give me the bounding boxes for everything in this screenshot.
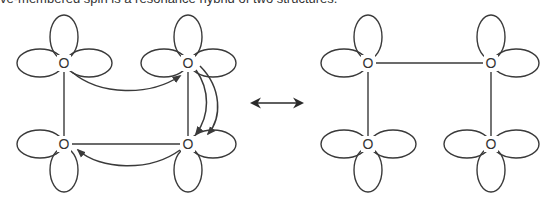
atom-bottom-right: O	[174, 130, 236, 192]
atom-top-right: O	[477, 15, 539, 77]
lobe-left	[17, 49, 63, 77]
atom-label: O	[363, 136, 374, 152]
atom-label: O	[59, 55, 70, 71]
left-structure: O O O O	[17, 15, 236, 192]
lobe-left	[321, 130, 367, 158]
lobe-right	[190, 49, 236, 77]
lobe-bottom	[354, 148, 382, 192]
lobe-bottom	[174, 148, 202, 192]
atom-bottom-left: O	[17, 130, 78, 192]
atom-bottom-left: O	[321, 130, 416, 192]
lobe-left	[17, 130, 63, 158]
lobe-right	[493, 49, 539, 77]
atom-label: O	[486, 55, 497, 71]
atom-label: O	[59, 136, 70, 152]
atom-top-left: O	[321, 15, 382, 77]
curved-arrow-icon	[72, 72, 180, 91]
atom-top-right: O	[141, 15, 236, 77]
atom-label: O	[363, 55, 374, 71]
atom-bottom-right: O	[444, 130, 539, 192]
lobe-bottom	[477, 148, 505, 192]
lobe-left	[444, 130, 490, 158]
curved-arrow-icon	[78, 150, 180, 166]
lobe-left	[141, 49, 187, 77]
lobe-bottom	[50, 148, 78, 192]
atom-label: O	[486, 136, 497, 152]
atom-top-left: O	[17, 15, 112, 77]
lobe-left	[321, 49, 367, 77]
curved-arrow-icon	[196, 70, 207, 134]
atom-label: O	[183, 55, 194, 71]
right-structure: O O O O	[321, 15, 539, 192]
resonance-diagram: O O O O	[0, 0, 552, 201]
atom-label: O	[183, 136, 194, 152]
